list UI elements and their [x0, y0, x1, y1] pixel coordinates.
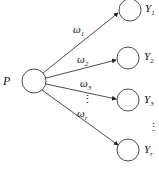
- ellipsis-targets: ⋮: [148, 122, 159, 133]
- node-y2: [117, 47, 139, 69]
- node-y3: [117, 89, 139, 111]
- label-y2: Y2: [144, 51, 154, 65]
- label-yr: Yr: [144, 144, 153, 158]
- node-yr: [117, 139, 139, 161]
- label-wr: ωr: [77, 108, 88, 122]
- ellipsis-weights: ⋮: [82, 94, 93, 105]
- label-y1: Y1: [145, 3, 155, 17]
- label-w2: ω2: [77, 54, 88, 68]
- node-p: [22, 69, 46, 93]
- node-y1: [119, 0, 141, 21]
- label-w1: ω1: [73, 24, 84, 38]
- label-w3: ω3: [80, 78, 91, 92]
- label-p: P: [3, 75, 10, 87]
- label-y3: Y3: [144, 94, 154, 108]
